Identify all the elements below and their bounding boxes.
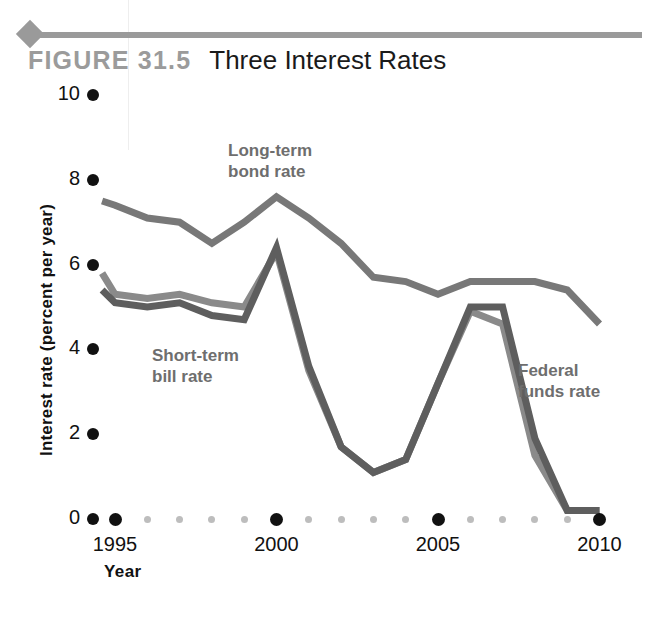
x-axis-tick-dot-minor xyxy=(531,516,538,523)
x-axis-tick-dot-minor xyxy=(467,516,474,523)
y-axis-tick-dot xyxy=(87,174,99,186)
x-axis-tick-dot-minor xyxy=(144,516,151,523)
x-axis-tick-dot-major xyxy=(432,513,445,526)
y-axis-tick-label: 10 xyxy=(46,82,80,105)
x-axis-title: Year xyxy=(104,562,142,582)
x-axis-tick-dot-minor xyxy=(564,516,571,523)
x-axis-tick-dot-minor xyxy=(208,516,215,523)
x-axis-tick-dot-minor xyxy=(499,516,506,523)
x-axis-tick-dot-minor xyxy=(402,516,409,523)
y-axis-tick-label: 0 xyxy=(46,506,80,529)
x-axis-tick-dot-minor xyxy=(176,516,183,523)
y-axis-tick-dot xyxy=(87,89,99,101)
y-axis-tick-dot xyxy=(87,513,99,525)
x-axis-tick-dot-minor xyxy=(338,516,345,523)
x-axis-tick-dot-minor xyxy=(241,516,248,523)
x-axis-tick-dot-major xyxy=(270,513,283,526)
series-label-long-term-bond: Long-term bond rate xyxy=(228,140,312,182)
x-axis-tick-label: 2005 xyxy=(408,533,468,556)
x-axis-tick-dot-major xyxy=(593,513,606,526)
series-label-short-term-bill: Short-term bill rate xyxy=(152,345,239,387)
figure-container: FIGURE 31.5Three Interest Rates 0246810 … xyxy=(0,0,655,620)
series-label-federal-funds: Federal funds rate xyxy=(518,360,600,402)
x-axis-tick-dot-major xyxy=(109,513,122,526)
x-axis-tick-dot-minor xyxy=(305,516,312,523)
x-axis-tick-label: 2010 xyxy=(570,533,630,556)
x-axis-tick-dot-minor xyxy=(370,516,377,523)
y-axis-title: Interest rate (percent per year) xyxy=(37,165,57,495)
x-axis-tick-label: 2000 xyxy=(247,533,307,556)
x-axis-tick-label: 1995 xyxy=(85,533,145,556)
y-axis-tick-dot xyxy=(87,259,99,271)
